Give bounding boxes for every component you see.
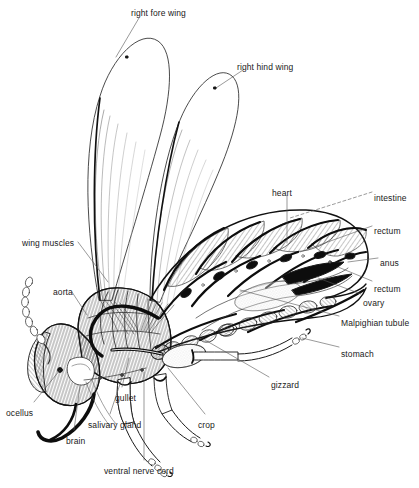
label-heart: heart [272,188,292,198]
label-right-hind-wing: right hind wing [237,62,293,72]
label-crop: crop [198,420,215,430]
label-ocellus: ocellus [6,408,33,418]
label-gizzard: gizzard [271,380,299,390]
label-gullet: gullet [115,393,136,403]
label-anus: anus [380,258,399,268]
leader-stomach [302,338,339,347]
anchor-dot-hind-wing [214,87,216,89]
label-right-fore-wing: right fore wing [131,8,186,18]
label-ventral-nerve-cord: ventral nerve cord [104,466,174,476]
label-rectum-lower: rectum [374,284,401,294]
leader-crop [168,368,205,414]
label-aorta: aorta [53,287,73,297]
anchor-dot-fore-wing [126,56,128,58]
label-wing-muscles: wing muscles [22,238,74,248]
label-stomach: stomach [341,349,374,359]
label-rectum-upper: rectum [374,226,401,236]
label-ovary: ovary [363,298,384,308]
label-intestine: intestine [374,193,407,203]
bee-anatomy-figure: right fore wingright hind wingheartintes… [0,0,419,488]
label-salivary-gland: salivary gland [88,420,141,430]
label-malpighian-tubule: Malpighian tubule [341,318,409,328]
rectum-sac [282,261,352,295]
label-brain: brain [66,436,85,446]
